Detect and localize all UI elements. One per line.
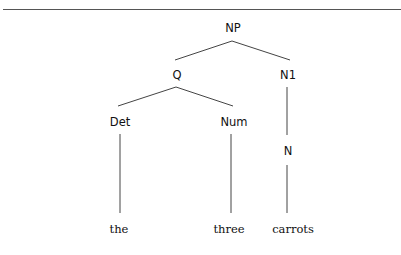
node-num: Num	[220, 115, 247, 129]
edge-q-det	[118, 87, 176, 106]
node-det: Det	[110, 115, 130, 129]
edge-q-num	[176, 87, 233, 106]
node-np: NP	[225, 21, 241, 35]
node-n1: N1	[280, 68, 296, 82]
leaf-the: the	[110, 222, 129, 236]
edge-np-n1	[232, 41, 290, 60]
node-n: N	[284, 144, 293, 158]
tree-edges	[0, 0, 401, 255]
edge-np-q	[175, 41, 232, 60]
leaf-carrots: carrots	[272, 222, 314, 236]
node-q: Q	[172, 68, 181, 82]
leaf-three: three	[213, 222, 244, 236]
